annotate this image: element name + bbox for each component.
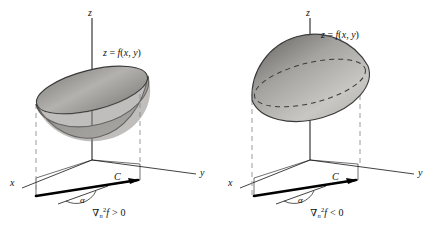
- axis-y-line: [92, 160, 196, 174]
- caption-left: ∇n2f > 0: [0, 206, 218, 219]
- axis-z-label: z: [87, 7, 92, 18]
- axis-y-line: [310, 160, 414, 174]
- curve-c-label: C: [114, 171, 121, 182]
- base-plane-outline: [36, 160, 140, 196]
- angle-alpha-label: α: [80, 195, 85, 205]
- caption-subscript: n: [317, 212, 320, 219]
- caption-right: ∇n2f < 0: [218, 206, 436, 219]
- diagram-convex-dome: z x y z = f(x, y) C α: [218, 0, 436, 241]
- axis-y-label: y: [199, 167, 205, 178]
- caption-function: f: [324, 207, 327, 218]
- figure-panel-left: z x y z = f(x, y) C α ∇n2f > 0: [0, 0, 218, 241]
- axis-x-label: x: [9, 177, 15, 188]
- axis-x-line: [240, 160, 310, 188]
- caption-subscript: n: [99, 212, 102, 219]
- axis-x-line: [22, 160, 92, 188]
- diagram-concave-bowl: z x y z = f(x, y) C α: [0, 0, 218, 241]
- caption-relation: < 0: [330, 207, 344, 218]
- axis-z-label: z: [305, 7, 310, 18]
- base-plane-outline: [254, 160, 358, 196]
- axis-x-label: x: [227, 177, 233, 188]
- surface-equation-label: z = f(x, y): [320, 29, 359, 41]
- curve-c-label: C: [332, 171, 339, 182]
- angle-alpha-label: α: [298, 195, 303, 205]
- surface-equation-label: z = f(x, y): [102, 47, 141, 59]
- caption-function: f: [106, 207, 109, 218]
- caption-relation: > 0: [112, 207, 126, 218]
- axis-y-label: y: [417, 167, 423, 178]
- figure-panel-right: z x y z = f(x, y) C α ∇n2f < 0: [218, 0, 436, 241]
